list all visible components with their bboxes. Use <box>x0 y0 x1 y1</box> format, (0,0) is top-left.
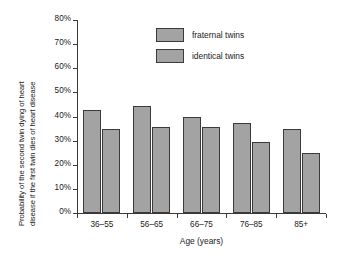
bar-fraternal-twins-76–85 <box>233 123 251 213</box>
y-axis-label-line-1: Probability of the second twin dying of … <box>17 81 26 226</box>
legend-item-1: identical twins <box>156 48 276 66</box>
bar-identical-twins-66–75 <box>202 127 220 213</box>
y-tick-mark <box>73 68 77 69</box>
x-axis-line <box>77 213 326 214</box>
y-tick-label: 0% <box>59 207 71 216</box>
x-tick-mark <box>177 214 178 218</box>
legend-item-0: fraternal twins <box>156 27 276 45</box>
y-tick-label: 80% <box>55 14 71 23</box>
legend-label-0: fraternal twins <box>192 30 244 40</box>
y-tick-mark <box>73 20 77 21</box>
x-tick-mark <box>276 214 277 218</box>
bar-fraternal-twins-66–75 <box>183 117 201 214</box>
y-tick-mark <box>73 189 77 190</box>
x-tick-mark <box>326 214 327 218</box>
x-axis-label: Age (years) <box>77 236 326 246</box>
x-tick-label-2: 66–75 <box>190 220 213 229</box>
y-axis-label-line-2: disease if the first twin dies of heart … <box>28 81 37 226</box>
y-tick-mark <box>73 141 77 142</box>
y-tick-label: 60% <box>55 62 71 71</box>
x-tick-label-0: 36–55 <box>91 220 114 229</box>
y-tick-mark <box>73 117 77 118</box>
y-tick-label: 40% <box>55 111 71 120</box>
legend: fraternal twinsidentical twins <box>156 27 276 69</box>
bar-identical-twins-36–55 <box>102 129 120 213</box>
x-tick-label-4: 85+ <box>294 220 308 229</box>
x-tick-label-1: 56–65 <box>140 220 163 229</box>
legend-label-1: identical twins <box>192 51 244 61</box>
y-tick-mark <box>73 165 77 166</box>
x-tick-mark <box>77 214 78 218</box>
y-axis-label: Probability of the second twin dying of … <box>0 0 46 232</box>
y-tick-label: 30% <box>55 135 71 144</box>
y-tick-mark <box>73 92 77 93</box>
x-tick-label-3: 76–85 <box>240 220 263 229</box>
y-tick-mark <box>73 44 77 45</box>
y-tick-label: 10% <box>55 183 71 192</box>
y-tick-label: 20% <box>55 159 71 168</box>
bar-fraternal-twins-56–65 <box>133 106 151 213</box>
bar-identical-twins-56–65 <box>152 127 170 213</box>
bar-chart-figure: Probability of the second twin dying of … <box>0 0 343 268</box>
bar-fraternal-twins-36–55 <box>83 110 101 213</box>
legend-swatch-0 <box>156 28 184 42</box>
x-tick-mark <box>127 214 128 218</box>
y-tick-label: 50% <box>55 86 71 95</box>
bar-identical-twins-76–85 <box>252 142 270 213</box>
y-axis-line <box>77 20 78 214</box>
legend-swatch-1 <box>156 49 184 63</box>
y-tick-label: 70% <box>55 38 71 47</box>
bar-identical-twins-85+ <box>302 153 320 213</box>
x-tick-mark <box>226 214 227 218</box>
bar-fraternal-twins-85+ <box>283 129 301 213</box>
